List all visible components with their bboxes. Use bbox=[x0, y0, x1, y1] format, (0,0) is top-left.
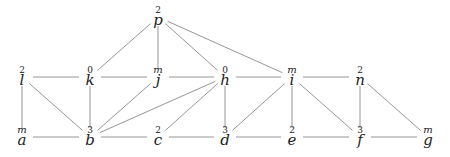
node-j: mj bbox=[153, 64, 163, 89]
node-e-label: e bbox=[288, 131, 297, 149]
edge-i-d bbox=[232, 84, 284, 131]
edge-i-f bbox=[299, 84, 352, 131]
node-f-label: f bbox=[356, 131, 365, 149]
node-h: 0h bbox=[220, 65, 230, 89]
edge-p-k bbox=[97, 24, 150, 71]
node-f: 3f bbox=[356, 125, 365, 149]
node-p: 2p bbox=[153, 5, 163, 29]
node-n-label: n bbox=[355, 71, 365, 89]
node-a: ma bbox=[17, 124, 26, 149]
edge-h-c bbox=[165, 84, 217, 131]
edge-n-g bbox=[367, 84, 420, 131]
graph-diagram: 2p2l0kmj0hmi2nma3b2c3d2e3fmg bbox=[0, 0, 450, 157]
node-n: 2n bbox=[355, 65, 365, 89]
edge-l-b bbox=[29, 84, 82, 131]
node-b: 3b bbox=[85, 125, 95, 149]
node-h-label: h bbox=[220, 71, 230, 89]
node-p-label: p bbox=[153, 11, 163, 29]
node-g: mg bbox=[423, 124, 433, 149]
node-a-label: a bbox=[18, 131, 27, 149]
node-g-label: g bbox=[423, 131, 433, 149]
node-l-label: l bbox=[20, 71, 25, 89]
node-k: 0k bbox=[85, 65, 94, 89]
node-e: 2e bbox=[288, 125, 297, 149]
node-l: 2l bbox=[19, 65, 25, 89]
node-d: 3d bbox=[220, 125, 230, 149]
node-b-label: b bbox=[85, 131, 95, 149]
node-c: 2c bbox=[154, 125, 163, 149]
node-i: mi bbox=[287, 64, 296, 89]
node-k-label: k bbox=[85, 71, 94, 89]
edge-p-h bbox=[165, 24, 217, 71]
node-c-label: c bbox=[154, 131, 163, 149]
edge-j-b bbox=[97, 84, 150, 131]
node-i-label: i bbox=[290, 71, 295, 89]
node-d-label: d bbox=[220, 131, 230, 149]
